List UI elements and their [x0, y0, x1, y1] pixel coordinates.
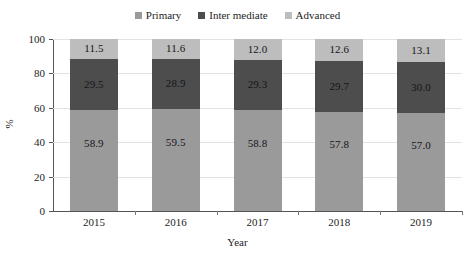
x-tick-label: 2017 [247, 216, 269, 228]
bar-segment-value-label: 58.9 [84, 138, 104, 149]
y-tick-label: 100 [0, 33, 45, 45]
bar-segment[interactable]: 29.5 [70, 59, 118, 110]
x-tick-label: 2015 [83, 216, 105, 228]
stacked-bar-chart: Primary Inter mediate Advanced 020406080… [0, 0, 475, 260]
x-tick-mark [462, 211, 463, 215]
legend-swatch-advanced-icon [285, 12, 292, 19]
legend-label-primary: Primary [146, 10, 181, 21]
x-tick-mark [380, 211, 381, 215]
x-tick-label: 2018 [328, 216, 350, 228]
x-tick-mark [135, 211, 136, 215]
legend-item-primary[interactable]: Primary [135, 10, 181, 21]
legend-label-advanced: Advanced [296, 10, 341, 21]
chart-legend: Primary Inter mediate Advanced [0, 10, 475, 21]
bar-segment[interactable]: 57.8 [315, 112, 363, 211]
x-tick-label: 2019 [410, 216, 432, 228]
legend-item-advanced[interactable]: Advanced [285, 10, 341, 21]
legend-label-intermediate: Inter mediate [209, 10, 267, 21]
y-tick-label: 60 [0, 102, 45, 114]
bar-stack[interactable]: 11.529.558.9 [70, 39, 118, 211]
x-axis-line [53, 211, 462, 212]
bar-segment[interactable]: 58.8 [234, 110, 282, 211]
bar-segment[interactable]: 12.6 [315, 39, 363, 61]
bar-stack[interactable]: 11.628.959.5 [152, 39, 200, 211]
bar-segment[interactable]: 30.0 [397, 62, 445, 114]
legend-swatch-primary-icon [135, 12, 142, 19]
bar-segment-value-label: 30.0 [411, 82, 431, 93]
x-tick-mark [298, 211, 299, 215]
bar-segment-value-label: 11.6 [166, 43, 185, 54]
bar-segment[interactable]: 57.0 [397, 113, 445, 211]
bar-segment-value-label: 12.0 [248, 44, 268, 55]
plot-area: 11.529.558.911.628.959.512.029.358.812.6… [53, 39, 462, 211]
legend-swatch-intermediate-icon [198, 12, 205, 19]
x-axis-title: Year [0, 236, 475, 248]
bar-stack[interactable]: 12.629.757.8 [315, 39, 363, 211]
y-tick-label: 0 [0, 205, 45, 217]
bar-segment[interactable]: 11.6 [152, 39, 200, 59]
bar-segment-value-label: 58.8 [248, 138, 268, 149]
bar-segment-value-label: 29.5 [84, 79, 104, 90]
bar-segment[interactable]: 11.5 [70, 39, 118, 59]
y-tick-label: 40 [0, 136, 45, 148]
bar-segment-value-label: 12.6 [329, 44, 349, 55]
bar-segment-value-label: 13.1 [411, 45, 431, 56]
bar-segment[interactable]: 29.3 [234, 60, 282, 110]
bar-segment-value-label: 29.3 [248, 79, 268, 90]
x-tick-mark [217, 211, 218, 215]
bar-segment-value-label: 57.8 [329, 139, 349, 150]
y-tick-label: 20 [0, 171, 45, 183]
bar-segment[interactable]: 29.7 [315, 61, 363, 112]
bar-stack[interactable]: 12.029.358.8 [234, 39, 282, 211]
bar-segment[interactable]: 59.5 [152, 109, 200, 211]
legend-item-intermediate[interactable]: Inter mediate [198, 10, 267, 21]
bar-segment-value-label: 11.5 [84, 43, 103, 54]
bar-segment-value-label: 57.0 [411, 140, 431, 151]
y-tick-label: 80 [0, 67, 45, 79]
bar-segment[interactable]: 13.1 [397, 39, 445, 62]
bar-stack[interactable]: 13.130.057.0 [397, 39, 445, 211]
bar-segment[interactable]: 58.9 [70, 110, 118, 211]
bar-segment[interactable]: 28.9 [152, 59, 200, 109]
y-axis-title: % [3, 119, 15, 128]
bar-segment-value-label: 59.5 [166, 137, 186, 148]
bar-segment-value-label: 28.9 [166, 78, 186, 89]
x-tick-label: 2016 [165, 216, 187, 228]
bar-segment-value-label: 29.7 [329, 81, 349, 92]
y-tick-mark [49, 211, 53, 212]
bar-segment[interactable]: 12.0 [234, 39, 282, 60]
